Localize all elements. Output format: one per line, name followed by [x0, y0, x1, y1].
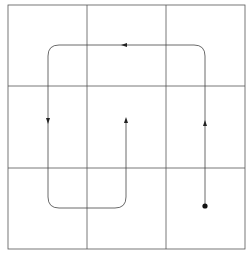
- grid-border: [8, 5, 245, 249]
- arrow-left-icon: [121, 43, 127, 47]
- arrow-up-icon: [124, 117, 128, 123]
- route-path: [48, 45, 205, 208]
- start-dot: [202, 203, 207, 208]
- arrow-down-icon: [46, 118, 50, 124]
- grid-path-diagram: [0, 0, 251, 268]
- grid: [8, 5, 245, 249]
- arrow-up-icon: [203, 120, 207, 126]
- arrowheads: [46, 43, 207, 126]
